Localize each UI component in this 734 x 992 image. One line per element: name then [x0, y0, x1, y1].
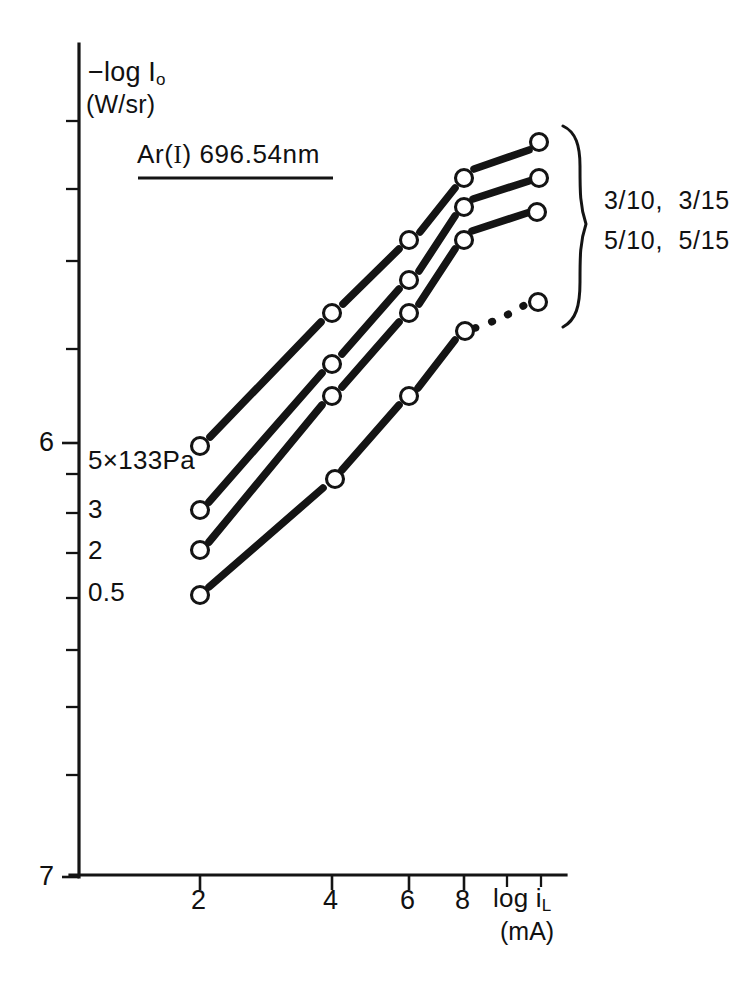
x-axis-label-subscript: L: [542, 896, 552, 915]
chart-title: Ar(I) 696.54nm: [137, 140, 320, 169]
y-tick-label-6: 6: [39, 427, 54, 457]
series-dotted-tail-0point5: [475, 303, 528, 328]
series-line-2: [209, 213, 527, 542]
y-axis-label-subscript: o: [156, 70, 165, 89]
x-tick-label-4: 4: [323, 885, 338, 915]
pressure-label-3: 3: [88, 495, 103, 524]
x-axis-label: log iL: [493, 884, 551, 915]
y-axis-label-text: −log I: [88, 57, 156, 87]
legend-entry-1: 5/10, 5/15: [604, 226, 730, 254]
y-axis-unit: (W/sr): [86, 90, 155, 118]
legend-brace-icon: [563, 126, 586, 327]
legend-entry-0: 3/10, 3/15: [604, 186, 730, 214]
x-tick-label-6: 6: [400, 885, 415, 915]
y-axis-label: −log Io: [88, 57, 165, 89]
x-tick-label-8: 8: [455, 885, 470, 915]
pressure-label-2: 2: [88, 536, 103, 565]
x-tick-label-2: 2: [191, 885, 206, 915]
plot-canvas: [0, 0, 734, 992]
x-axis: [70, 875, 566, 890]
chart-title-roman-numeral: I: [173, 141, 182, 168]
chart-title-wavelength: 696.54nm: [200, 139, 320, 169]
series-markers-5x133pa: [192, 134, 548, 455]
chart-title-element: Ar: [137, 139, 164, 169]
y-tick-label-7: 7: [39, 861, 54, 891]
pressure-label-0point5: 0.5: [88, 578, 125, 607]
x-axis-label-text: log i: [493, 883, 542, 913]
pressure-label-5x133pa: 5×133Pa: [88, 446, 195, 475]
series-markers-2: [192, 204, 546, 559]
figure-container: −log Io (W/sr) Ar(I) 696.54nm 6 7 5×133P…: [0, 0, 734, 992]
x-axis-unit: (mA): [500, 917, 554, 945]
y-axis: [62, 44, 79, 877]
